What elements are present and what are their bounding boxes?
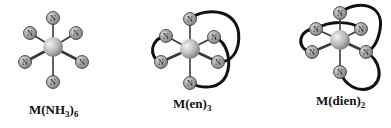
svg-text:N: N [309, 48, 315, 57]
complex-m-dien-2: N N N N N N [301, 5, 381, 89]
svg-text:N: N [22, 58, 28, 67]
svg-text:N: N [313, 25, 319, 34]
metal-center [330, 30, 350, 50]
svg-text:N: N [73, 29, 79, 38]
svg-text:N: N [187, 15, 193, 24]
svg-text:N: N [50, 78, 56, 87]
svg-text:N: N [187, 79, 193, 88]
label-m-en-3: M(en)3 [173, 96, 211, 113]
svg-text:N: N [358, 25, 364, 34]
svg-text:N: N [215, 58, 221, 67]
svg-text:N: N [158, 58, 164, 67]
svg-text:N: N [363, 48, 369, 57]
label-m-nh3-6: M(NH3)6 [29, 102, 78, 119]
complex-m-nh3-6: N N N N N N [19, 12, 89, 89]
svg-text:N: N [211, 33, 217, 42]
svg-text:N: N [27, 29, 33, 38]
metal-center [43, 37, 63, 57]
svg-text:N: N [50, 14, 56, 23]
label-m-dien-2: M(dien)2 [316, 93, 365, 110]
svg-text:N: N [79, 58, 85, 67]
svg-text:N: N [163, 32, 169, 41]
complex-m-en-3: N N N N N N [152, 12, 238, 90]
svg-text:N: N [337, 68, 343, 77]
metal-center [180, 39, 200, 59]
svg-text:N: N [337, 9, 343, 18]
